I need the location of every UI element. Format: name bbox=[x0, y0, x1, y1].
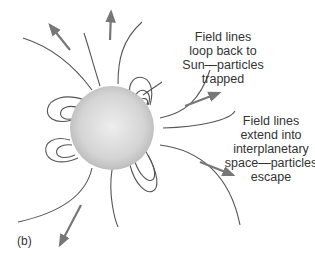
annotation-line: Sun—particles bbox=[168, 58, 278, 72]
open-field-annotation: Field lines extend into interplanetary s… bbox=[222, 114, 315, 184]
sun-sphere bbox=[70, 86, 154, 170]
annotation-line: loop back to bbox=[168, 44, 278, 58]
annotation-line: Field lines bbox=[222, 114, 315, 128]
panel-label: (b) bbox=[17, 234, 32, 248]
annotation-line: space—particles bbox=[222, 156, 315, 170]
annotation-line: trapped bbox=[168, 72, 278, 86]
annotation-line: interplanetary bbox=[222, 142, 315, 156]
closed-field-annotation: Field lines loop back to Sun—particles t… bbox=[168, 30, 278, 86]
solar-magnetic-field-diagram: Field lines loop back to Sun—particles t… bbox=[0, 0, 315, 260]
annotation-line: escape bbox=[222, 170, 315, 184]
annotation-line: Field lines bbox=[168, 30, 278, 44]
annotation-line: extend into bbox=[222, 128, 315, 142]
